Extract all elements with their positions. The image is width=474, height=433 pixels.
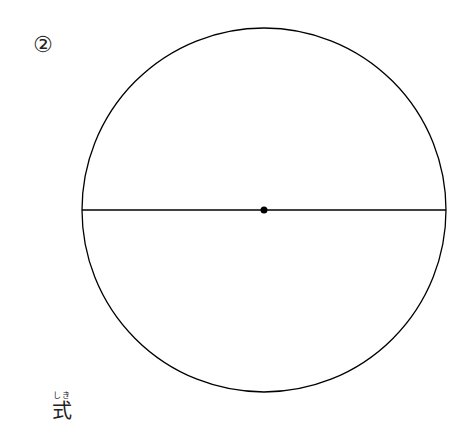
circle-diagram bbox=[0, 0, 474, 433]
center-point bbox=[261, 207, 268, 214]
formula-label: しき 式 bbox=[52, 392, 72, 421]
formula-kanji: 式 bbox=[52, 401, 72, 421]
